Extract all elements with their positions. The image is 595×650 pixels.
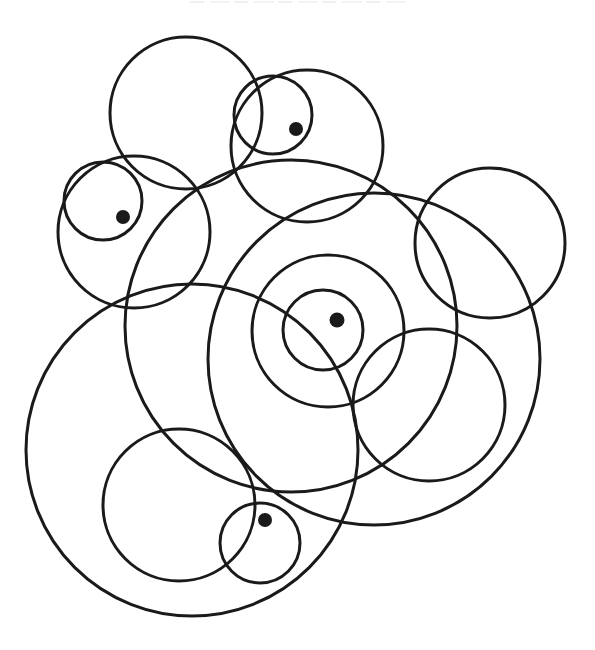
circles-diagram xyxy=(0,0,595,650)
circle-center-middle xyxy=(252,255,404,407)
circle-top-small xyxy=(234,76,312,154)
dot-center xyxy=(330,313,345,328)
dot-left xyxy=(116,210,130,224)
circle-left-small xyxy=(64,162,142,240)
circle-large-bottom-left xyxy=(26,284,358,616)
dots-layer xyxy=(116,122,345,527)
circle-bottom-small xyxy=(220,503,300,583)
circle-bottom-left-medium xyxy=(103,429,255,581)
circle-right-medium xyxy=(415,168,565,318)
circle-lower-right-medium xyxy=(353,329,505,481)
dot-bottom xyxy=(258,513,272,527)
circle-large-center xyxy=(125,160,457,492)
circle-center-inner xyxy=(283,290,363,370)
dot-top xyxy=(289,122,303,136)
